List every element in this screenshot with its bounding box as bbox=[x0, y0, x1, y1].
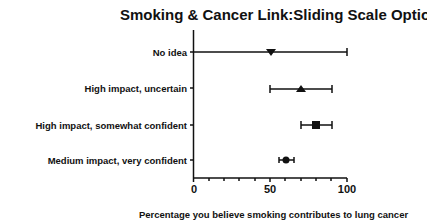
x-tick-50: 50 bbox=[264, 183, 276, 195]
x-tick-100: 100 bbox=[338, 183, 356, 195]
errorbar-high-uncertain bbox=[270, 85, 332, 93]
x-tick-0: 0 bbox=[191, 183, 197, 195]
errorbar-no-idea bbox=[194, 48, 348, 56]
plot-area bbox=[0, 0, 427, 222]
errorbar-high-somewhat bbox=[301, 121, 332, 129]
errorbar-medium-very bbox=[279, 157, 294, 164]
x-axis-label: Percentage you believe smoking contribut… bbox=[120, 209, 427, 220]
